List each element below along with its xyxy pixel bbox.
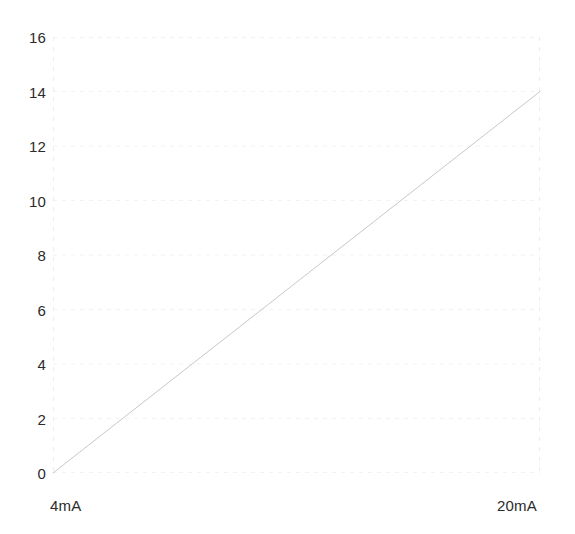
plot-area: [53, 37, 540, 473]
line-chart-figure: 16 14 12 10 8 6 4 2 0: [0, 0, 575, 534]
x-tick-label: 20mA: [497, 498, 537, 513]
y-tick-label: 4: [0, 357, 46, 372]
y-tick-label: 16: [0, 30, 46, 45]
y-tick-label: 6: [0, 302, 46, 317]
y-tick-label: 8: [0, 248, 46, 263]
y-tick-label: 10: [0, 193, 46, 208]
data-series-line: [53, 92, 540, 474]
x-axis-tick-labels: 4mA 20mA: [0, 498, 575, 522]
horizontal-gridlines: [53, 38, 540, 473]
y-tick-label: 0: [0, 466, 46, 481]
plot-svg: [53, 37, 540, 473]
y-axis-tick-labels: 16 14 12 10 8 6 4 2 0: [0, 0, 46, 534]
y-tick-label: 12: [0, 139, 46, 154]
clipped-top-text: [134, 0, 224, 4]
x-tick-label: 4mA: [50, 498, 81, 513]
y-tick-label: 14: [0, 84, 46, 99]
y-tick-label: 2: [0, 411, 46, 426]
